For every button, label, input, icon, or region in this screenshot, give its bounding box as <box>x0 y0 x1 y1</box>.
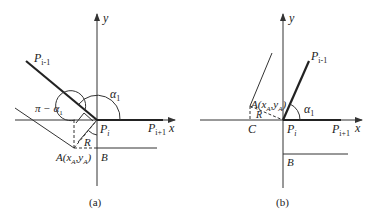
label-point-b: B <box>101 151 108 163</box>
label-radius-r: R <box>83 136 91 148</box>
label-p-next: Pi+1 <box>147 121 166 137</box>
label-point-c: C <box>248 122 257 136</box>
offset-line <box>15 108 74 148</box>
label-point-b: B <box>287 156 294 168</box>
x-axis-label: x <box>168 121 175 135</box>
angle-arc-small <box>89 131 97 135</box>
label-p-cur: Pi <box>99 122 110 138</box>
angle-arc-alpha1 <box>290 104 300 120</box>
label-alpha1: α1 <box>110 87 120 103</box>
figure-canvas: y x Pi-1 Pi Pi+1 A(xA,yA) B R α1 π − α1 … <box>0 0 375 224</box>
label-p-prev: Pi-1 <box>310 49 327 65</box>
label-p-cur: Pi <box>286 122 297 138</box>
panel-b: y x Pi-1 Pi Pi+1 A(xA,yA) C B R α1 (b) <box>200 11 362 209</box>
label-p-prev: Pi-1 <box>33 51 50 67</box>
x-axis-label: x <box>354 121 361 135</box>
label-point-a: A(xA,yA) <box>55 151 91 166</box>
y-axis-label: y <box>288 11 295 25</box>
caption-b: (b) <box>276 196 289 209</box>
label-p-next: Pi+1 <box>331 122 350 138</box>
caption-a: (a) <box>89 196 102 209</box>
label-alpha1: α1 <box>304 102 314 118</box>
y-axis-label: y <box>102 11 109 25</box>
label-pi-minus-alpha1: π − α1 <box>35 102 63 117</box>
label-radius-r: R <box>255 109 262 120</box>
panel-a: y x Pi-1 Pi Pi+1 A(xA,yA) B R α1 π − α1 … <box>15 11 175 209</box>
